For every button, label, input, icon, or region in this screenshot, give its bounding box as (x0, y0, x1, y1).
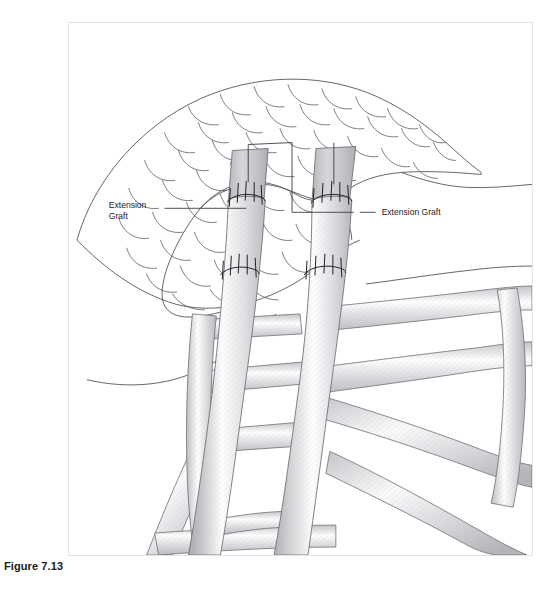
cartilage-mass-group (77, 79, 481, 317)
illustration-panel: Extension Graft Extension Graft (68, 22, 533, 556)
upper-right-contour (402, 172, 532, 187)
figure-caption: Figure 7.13 (4, 560, 63, 572)
left-label-line2: Graft (109, 211, 129, 221)
mid-right-contour (366, 266, 532, 284)
right-label-line1: Extension Graft (382, 207, 442, 217)
figure-page: Extension Graft Extension Graft Figure 7… (0, 0, 560, 592)
illustration-canvas: Extension Graft Extension Graft (69, 23, 532, 555)
left-label-line1: Extension (109, 200, 147, 210)
extension-graft-right (274, 147, 356, 555)
cartilage-mass-outline (77, 79, 481, 317)
